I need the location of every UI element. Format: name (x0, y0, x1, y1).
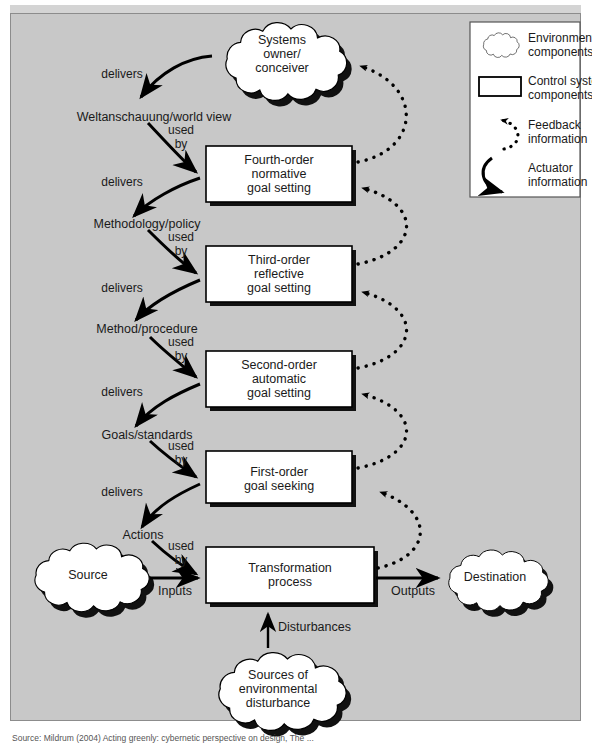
edge-used-label-1: used (155, 124, 207, 137)
flow-method-label: Method/procedure (62, 322, 232, 336)
edge-delivers-label-5: delivers (86, 486, 158, 499)
edge-delivers-label-2: delivers (86, 176, 158, 189)
box-first-order-label: First-order goal seeking (206, 465, 352, 493)
edge-used-label-5: used (155, 540, 207, 553)
legend-item-0-label: Environmental components (528, 31, 584, 60)
flow-inputs-label: Inputs (140, 584, 210, 598)
cloud-systems-owner-label: Systems owner/ conceiver (208, 33, 356, 75)
edge-delivers-label-3: delivers (86, 282, 158, 295)
edge-delivers-label-4: delivers (86, 386, 158, 399)
box-third-order-label: Third-order reflective goal setting (206, 253, 352, 295)
edge-by-label-4: by (155, 454, 207, 467)
edge-used-label-4: used (155, 440, 207, 453)
edge-used-label-3: used (155, 336, 207, 349)
edge-by-label-1: by (155, 138, 207, 151)
flow-methodology-label: Methodology/policy (62, 217, 232, 231)
figure-caption: Source: Mildrum (2004) Acting greenly: c… (12, 733, 572, 743)
box-fourth-order-label: Fourth-order normative goal setting (206, 153, 352, 195)
edge-by-label-5: by (155, 554, 207, 567)
legend-item-3-label: Actuator information (528, 161, 584, 190)
figure-canvas: Systems owner/ conceiver Source Destinat… (0, 0, 592, 743)
edge-used-label-2: used (155, 231, 207, 244)
flow-outputs-label: Outputs (378, 584, 448, 598)
edge-by-label-2: by (155, 245, 207, 258)
top-band (10, 5, 581, 13)
cloud-destination-label: Destination (434, 570, 556, 584)
cloud-disturbance-label: Sources of environmental disturbance (200, 668, 356, 710)
cloud-source-label: Source (18, 568, 158, 582)
flow-weltanschauung-label: Weltanschauung/world view (54, 110, 254, 124)
edge-by-label-3: by (155, 350, 207, 363)
legend-item-2-label: Feedback information (528, 118, 584, 147)
box-transformation-label: Transformation process (206, 561, 374, 589)
legend-item-1-label: Control system components (528, 74, 584, 103)
edge-delivers-label-1: delivers (86, 68, 158, 81)
flow-disturbances-label: Disturbances (278, 620, 388, 634)
box-second-order-label: Second-order automatic goal setting (206, 358, 352, 400)
